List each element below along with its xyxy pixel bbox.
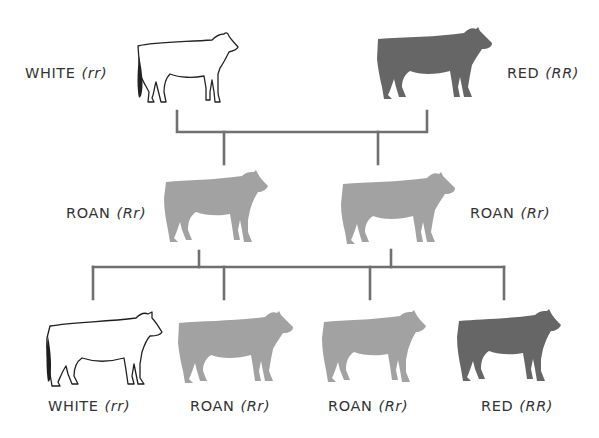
f1-left-label: ROAN(Rr) [66,206,146,221]
f2-red-label: RED(RR) [481,399,553,414]
red-cow-parent-icon [374,25,496,105]
white-cow-parent-icon [134,30,240,110]
parent-white-label: WHITE(rr) [25,66,107,81]
roan-cow-f2-2-icon [320,308,426,388]
phenotype: ROAN [66,205,110,221]
phenotype: WHITE [48,398,99,414]
parent-cross-bracket [177,111,427,132]
f1-right-label: ROAN(Rr) [470,206,550,221]
roan-cow-f1-right-icon [339,170,457,250]
inheritance-diagram: WHITE(rr) RED(RR) ROAN(Rr) ROAN(Rr) WHIT… [0,0,599,438]
phenotype: RED [481,398,513,414]
red-cow-f2-icon [455,307,561,387]
phenotype: RED [507,65,539,81]
phenotype: WHITE [25,65,76,81]
white-cow-f2-icon [44,308,164,390]
genotype: (RR) [545,65,579,81]
phenotype: ROAN [190,398,234,414]
f2-white-label: WHITE(rr) [48,399,130,414]
genotype: (Rr) [240,398,270,414]
f2-roan-1-label: ROAN(Rr) [190,399,270,414]
genotype: (Rr) [520,205,550,221]
genotype: (rr) [82,65,108,81]
genotype: (RR) [519,398,553,414]
roan-cow-f2-1-icon [175,307,295,389]
roan-cow-f1-left-icon [162,170,268,248]
genotype: (Rr) [378,398,408,414]
phenotype: ROAN [470,205,514,221]
genotype: (rr) [105,398,131,414]
f2-roan-2-label: ROAN(Rr) [328,399,408,414]
phenotype: ROAN [328,398,372,414]
genotype: (Rr) [116,205,146,221]
parent-red-label: RED(RR) [507,66,579,81]
